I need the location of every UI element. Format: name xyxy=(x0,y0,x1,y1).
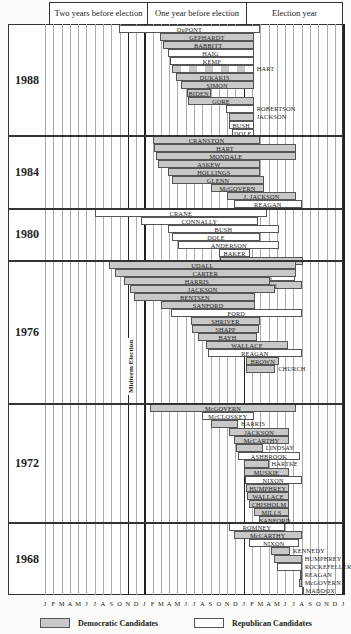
candidate-bar: BABBITT xyxy=(163,41,254,49)
month-tick-label: N xyxy=(223,600,231,607)
month-tick-label: N xyxy=(323,600,331,607)
candidate-bar: ASKEW xyxy=(158,160,261,168)
candidate-bar: NIXON xyxy=(245,476,302,484)
candidate-bar: NIXON xyxy=(249,539,300,547)
candidate-bar xyxy=(302,587,304,595)
candidate-bar: MILLS xyxy=(254,508,290,516)
candidate-label: HARTKE xyxy=(272,460,298,467)
grid-line xyxy=(153,24,154,595)
month-tick-label: J xyxy=(82,600,90,607)
candidate-bar: BUSH xyxy=(229,121,254,129)
candidate-label: CHURCH xyxy=(278,365,305,372)
candidate-label: HUMPHREY xyxy=(305,555,342,562)
candidate-bar: CONNALLY xyxy=(141,217,258,225)
candidate-label: REAGAN xyxy=(305,571,332,578)
month-tick-label: A xyxy=(99,600,107,607)
grid-line xyxy=(335,24,336,595)
candidate-bar: ROMNEY xyxy=(229,523,285,531)
section-separator xyxy=(8,522,343,524)
candidate-bar: MONDALE xyxy=(156,152,296,160)
candidate-bar: BAYH xyxy=(198,333,257,341)
grid-line xyxy=(327,24,328,595)
grid-line xyxy=(161,24,162,595)
candidate-bar xyxy=(211,420,238,428)
header-two-years-before: Two years before election xyxy=(49,2,148,24)
month-tick-label: M xyxy=(74,600,82,607)
grid-line xyxy=(86,24,87,595)
candidate-bar: MUSKIE xyxy=(244,468,290,476)
candidate-bar: BAKER xyxy=(219,249,250,257)
grid-line xyxy=(144,24,146,595)
month-tick-label: J xyxy=(240,600,248,607)
candidate-bar: DUKAKIS xyxy=(176,73,254,81)
candidate-bar: DuPONT xyxy=(119,25,261,33)
grid-line xyxy=(70,24,71,595)
candidate-label: HART xyxy=(257,65,275,72)
header-election-year: Election year xyxy=(246,2,343,24)
election-year-label: 1972 xyxy=(10,456,44,471)
candidate-bar xyxy=(299,579,301,587)
candidate-label: JACKSON xyxy=(257,113,287,120)
election-year-label: 1968 xyxy=(10,552,44,567)
election-year-label: 1988 xyxy=(10,73,44,88)
candidate-bar: UDALL xyxy=(109,261,296,269)
month-tick-label: F xyxy=(49,600,57,607)
candidate-bar: CARTER xyxy=(115,269,296,277)
candidate-bar: BROWN xyxy=(246,357,279,365)
grid-line xyxy=(343,24,345,595)
candidate-bar: CRANE xyxy=(95,209,267,217)
candidate-bar xyxy=(226,105,254,113)
election-year-label: 1984 xyxy=(10,165,44,180)
candidate-label: KENNEDY xyxy=(293,547,325,554)
month-tick-label: J xyxy=(41,600,49,607)
candidate-label: HARRIS xyxy=(241,420,265,427)
candidate-label: ROBERTSON xyxy=(257,105,296,112)
month-tick-label: M xyxy=(273,600,281,607)
candidate-bar: WALLACE xyxy=(206,341,287,349)
candidate-bar: SIMON xyxy=(181,81,254,89)
democratic-swatch xyxy=(40,618,70,628)
month-tick-label: J xyxy=(140,600,148,607)
candidate-bar: McCLOSKEY xyxy=(202,412,253,420)
month-tick-label: O xyxy=(116,600,124,607)
candidate-bar: McGOVERN xyxy=(211,184,265,192)
grid-line xyxy=(78,24,79,595)
candidate-bar: HOLLINGS xyxy=(168,168,261,176)
month-tick-label: J xyxy=(289,600,297,607)
candidate-bar xyxy=(277,563,302,571)
candidate-bar: WALLACE xyxy=(247,492,289,500)
month-tick-label: J xyxy=(190,600,198,607)
midterm-election-label: Midterm Election xyxy=(127,338,135,395)
month-tick-label: M xyxy=(157,600,165,607)
election-year-label: 1976 xyxy=(10,325,44,340)
candidate-label: McGOVERN xyxy=(305,579,341,586)
candidate-bar: BENTSEN xyxy=(134,293,255,301)
candidate-bar: GEPHARDT xyxy=(160,33,254,41)
month-tick-label: D xyxy=(231,600,239,607)
candidate-bar: HART xyxy=(154,144,296,152)
legend-democratic: Democratic Candidates xyxy=(40,618,158,628)
month-tick-label: J xyxy=(281,600,289,607)
candidate-label: MADDOX xyxy=(306,587,336,594)
month-tick-label: S xyxy=(207,600,215,607)
month-tick-label: D xyxy=(132,600,140,607)
month-tick-label: A xyxy=(198,600,206,607)
month-tick-label: F xyxy=(248,600,256,607)
candidate-bar: KEMP xyxy=(170,57,254,65)
grid-line xyxy=(310,24,311,595)
grid-line xyxy=(62,24,63,595)
candidate-bar: McGOVERN xyxy=(150,404,296,412)
grid-line xyxy=(120,24,121,595)
candidate-bar: JACKSON xyxy=(130,285,275,293)
month-tick-label: A xyxy=(298,600,306,607)
legend-republican: Republican Candidates xyxy=(194,618,312,628)
section-separator xyxy=(8,135,343,137)
candidate-bar: REAGAN xyxy=(234,200,302,208)
candidate-bar xyxy=(244,460,269,468)
candidate-bar: J. JACKSON xyxy=(227,192,296,200)
candidate-bar: McCARTHY xyxy=(234,531,302,539)
candidate-bar: BUSH xyxy=(168,225,280,233)
grid-line xyxy=(128,24,130,595)
candidate-bar: JACKSON xyxy=(229,428,289,436)
month-tick-label: S xyxy=(306,600,314,607)
